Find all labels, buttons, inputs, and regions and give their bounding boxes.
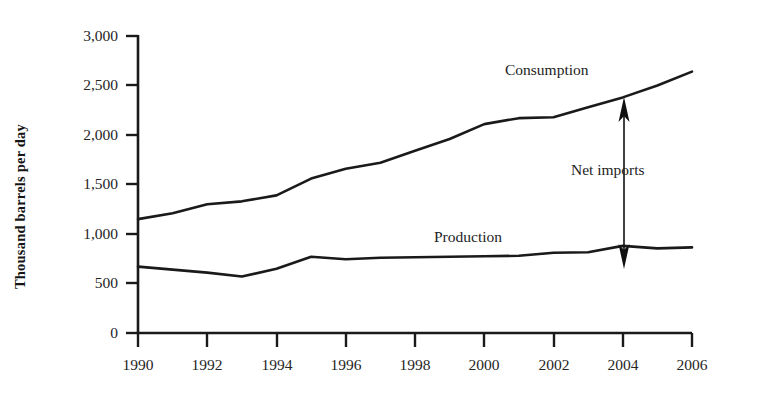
x-tick-label-2000: 2000 [454, 357, 514, 373]
net-imports-label: Net imports [571, 162, 645, 178]
x-tick-label-2002: 2002 [524, 357, 584, 373]
x-tick-label-1996: 1996 [316, 357, 376, 373]
x-tick-label-1992: 1992 [177, 357, 237, 373]
chart-figure: Thousand barrels per day [0, 0, 768, 413]
production-series-label: Production [434, 229, 502, 245]
x-tick-label-1990: 1990 [108, 357, 168, 373]
consumption-series-label: Consumption [505, 62, 589, 78]
net-imports-arrow [0, 0, 768, 413]
y-tick-label-3000: 3,000 [38, 28, 118, 44]
y-tick-label-2500: 2,500 [38, 77, 118, 93]
x-tick-label-2006: 2006 [662, 357, 722, 373]
x-tick-label-1994: 1994 [247, 357, 307, 373]
y-tick-label-0: 0 [38, 325, 118, 341]
x-tick-label-1998: 1998 [385, 357, 445, 373]
y-tick-label-1500: 1,500 [38, 176, 118, 192]
y-tick-label-1000: 1,000 [38, 226, 118, 242]
plot-area: 3,000 2,500 2,000 1,500 1,000 500 0 1990… [0, 0, 768, 413]
x-tick-label-2004: 2004 [593, 357, 653, 373]
y-tick-label-500: 500 [38, 275, 118, 291]
y-tick-label-2000: 2,000 [38, 127, 118, 143]
